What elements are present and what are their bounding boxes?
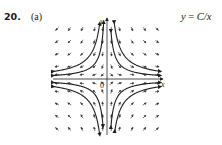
slope-arrow	[130, 83, 134, 84]
slope-arrow	[56, 28, 59, 31]
y-axis-label: y	[99, 17, 104, 26]
slope-arrow	[118, 83, 122, 84]
slope-arrow	[68, 115, 71, 118]
slope-arrow	[94, 52, 96, 56]
slope-arrow	[55, 103, 59, 105]
slope-arrow	[143, 127, 146, 130]
slope-arrow	[131, 27, 133, 31]
slope-arrow	[80, 83, 84, 84]
slope-arrow	[110, 82, 113, 85]
solution-curve	[111, 31, 160, 76]
slope-arrow	[102, 102, 103, 106]
slope-arrow	[156, 128, 159, 131]
slope-arrow	[143, 91, 147, 92]
slope-arrow	[81, 53, 84, 56]
slope-arrow	[56, 128, 59, 131]
slope-arrow	[68, 40, 71, 43]
slope-arrow	[80, 74, 84, 75]
slope-arrow	[111, 65, 112, 69]
slope-arrow	[55, 66, 59, 67]
slope-arrow	[131, 40, 133, 44]
slope-arrow	[111, 90, 112, 94]
solution-curve	[114, 22, 160, 71]
solution-curve	[53, 22, 104, 75]
slope-arrow	[81, 27, 83, 31]
slope-arrow	[143, 66, 147, 67]
slope-arrow	[119, 102, 121, 106]
solution-curve	[111, 83, 160, 128]
slope-arrow	[81, 103, 84, 106]
slope-arrow	[101, 73, 104, 76]
slope-arrow	[119, 115, 120, 119]
slope-arrow	[55, 40, 58, 43]
slope-arrow	[155, 66, 159, 67]
slope-arrow	[131, 53, 134, 56]
slope-arrow	[143, 27, 146, 30]
slope-arrow	[143, 40, 146, 43]
slope-arrow	[93, 83, 97, 84]
slope-arrow	[55, 115, 58, 118]
slope-arrow	[68, 127, 71, 130]
slope-arrow	[68, 53, 72, 55]
slope-arrow	[94, 127, 95, 131]
slope-arrow	[131, 115, 133, 119]
slope-arrow	[155, 115, 158, 118]
slope-arrow	[102, 65, 103, 69]
slope-arrow	[81, 127, 83, 131]
solution-curve	[53, 82, 103, 126]
slope-arrow	[155, 53, 159, 55]
solution-curve	[115, 87, 160, 131]
slope-arrow	[155, 91, 159, 92]
solution-curve	[53, 87, 100, 135]
solution-curves	[53, 22, 160, 135]
slope-arrow	[94, 40, 95, 44]
slope-arrow	[118, 74, 122, 75]
slope-arrow	[156, 28, 159, 31]
slope-arrow	[143, 103, 147, 105]
slope-arrow	[81, 115, 83, 119]
slope-arrow	[68, 66, 72, 67]
slope-arrow	[111, 102, 112, 106]
slope-arrow	[81, 40, 83, 44]
slope-arrow	[130, 74, 134, 75]
slope-arrow	[143, 53, 147, 55]
solution-curve	[53, 23, 100, 71]
slope-arrow	[119, 40, 120, 44]
slope-arrow	[111, 52, 112, 56]
slope-arrow	[143, 115, 146, 118]
x-axis-label: x	[160, 80, 165, 89]
slope-arrow	[155, 103, 159, 105]
slope-arrow	[131, 103, 134, 106]
slope-arrow	[68, 91, 72, 92]
slope-arrow	[130, 91, 134, 93]
slope-arrow	[94, 115, 95, 119]
slope-arrow	[68, 103, 72, 105]
slope-arrow	[110, 73, 113, 76]
slope-arrow	[119, 52, 121, 56]
slope-arrow	[155, 40, 158, 43]
slope-arrow	[94, 27, 95, 31]
slope-arrow	[80, 66, 84, 68]
slope-arrow	[131, 127, 133, 131]
slope-arrow	[130, 66, 134, 68]
origin-label: 0	[100, 81, 104, 90]
slope-arrow	[55, 53, 59, 55]
slope-arrow	[102, 52, 103, 56]
slope-arrow	[102, 90, 103, 94]
slope-arrow	[119, 27, 120, 31]
slope-arrow	[119, 127, 120, 131]
slope-arrow	[55, 91, 59, 92]
direction-field-diagram: x y 0	[0, 0, 222, 145]
slope-arrow	[80, 91, 84, 93]
slope-arrow	[94, 102, 96, 106]
slope-arrow	[93, 74, 97, 75]
slope-arrow	[68, 27, 71, 30]
